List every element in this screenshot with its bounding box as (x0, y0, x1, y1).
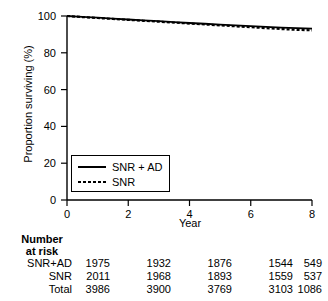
risk-table-row: Total 3986 3900 3769 3103 1086 (0, 283, 328, 296)
risk-cell: 537 (288, 270, 322, 283)
risk-row-label-total: Total (0, 283, 72, 296)
risk-table-row: SNR 2011 1968 1893 1559 537 (0, 270, 328, 283)
legend-item-snr: SNR (78, 175, 135, 189)
risk-table-row: SNR+AD 1975 1932 1876 1544 549 (0, 257, 328, 270)
x-axis-label: Year (150, 217, 230, 229)
y-axis-label: Proportion surviving (%) (22, 24, 34, 184)
risk-cell: 549 (288, 257, 322, 270)
legend-swatch-solid-icon (78, 162, 106, 172)
survival-chart-figure: 0 20 40 60 80 100 0 2 4 6 8 Proportion s… (0, 0, 328, 301)
risk-cell: 1975 (76, 257, 110, 270)
y-tick-label-100: 100 (26, 11, 56, 22)
risk-heading-line2: at risk (6, 245, 78, 257)
risk-cell: 3986 (76, 283, 110, 296)
risk-row-label-snr: SNR (0, 270, 72, 283)
legend-label-snr: SNR (112, 177, 135, 188)
risk-cell: 1968 (137, 270, 171, 283)
risk-heading-line1: Number (6, 233, 78, 245)
risk-cell: 1932 (137, 257, 171, 270)
y-axis-ticks (61, 16, 67, 200)
x-tick-label-0: 0 (57, 209, 77, 220)
legend-item-snr-ad: SNR + AD (78, 160, 162, 174)
risk-cell: 3769 (198, 283, 232, 296)
legend-label-snr-ad: SNR + AD (112, 162, 162, 173)
risk-cell: 3900 (137, 283, 171, 296)
risk-table-heading: Number at risk (6, 233, 78, 257)
risk-cell: 1876 (198, 257, 232, 270)
y-tick-label-0: 0 (26, 195, 56, 206)
x-tick-label-8: 8 (302, 209, 322, 220)
risk-cell: 1086 (288, 283, 322, 296)
risk-cell: 2011 (76, 270, 110, 283)
number-at-risk-table: Number at risk SNR+AD 1975 1932 1876 154… (0, 232, 328, 301)
risk-row-label-snr-ad: SNR+AD (0, 257, 72, 270)
legend-swatch-dotted-icon (78, 177, 106, 187)
legend: SNR + AD SNR (71, 155, 170, 192)
plot-area: 0 20 40 60 80 100 0 2 4 6 8 Proportion s… (0, 0, 328, 232)
x-axis-ticks (67, 200, 312, 206)
x-tick-label-2: 2 (118, 209, 138, 220)
series-line-snr-ad (67, 16, 312, 29)
risk-cell: 1893 (198, 270, 232, 283)
x-tick-label-6: 6 (241, 209, 261, 220)
